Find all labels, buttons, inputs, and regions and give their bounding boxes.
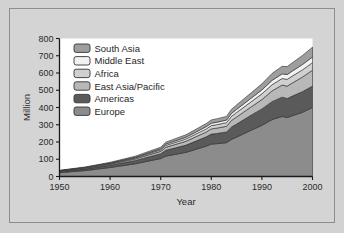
legend-swatch-europe [74, 107, 90, 115]
y-axis-ticks: 0100200300400500600700800 [38, 34, 59, 182]
y-tick-label: 700 [38, 51, 53, 61]
x-axis-title: Year [176, 196, 195, 207]
y-tick-label: 800 [38, 34, 53, 44]
legend-label-middle-east: Middle East [95, 55, 145, 66]
legend-label-east-asia-pacific: East Asia/Pacific [95, 81, 165, 92]
y-tick-label: 300 [38, 120, 53, 130]
legend-swatch-south-asia [74, 44, 90, 52]
x-axis-ticks: 195019601970198019902000 [49, 177, 322, 192]
x-tick-label: 1960 [100, 182, 120, 192]
y-tick-label: 100 [38, 154, 53, 164]
x-tick-label: 2000 [302, 182, 322, 192]
x-tick-label: 1980 [201, 182, 221, 192]
y-tick-label: 200 [38, 137, 53, 147]
y-tick-label: 400 [38, 103, 53, 113]
y-tick-label: 0 [48, 172, 53, 182]
y-tick-label: 600 [38, 68, 53, 78]
legend-label-south-asia: South Asia [95, 43, 141, 54]
legend-label-americas: Americas [95, 93, 135, 104]
figure-background: 195019601970198019902000 010020030040050… [0, 0, 344, 233]
y-tick-label: 500 [38, 85, 53, 95]
legend-swatch-middle-east [74, 57, 90, 65]
legend-swatch-africa [74, 69, 90, 77]
legend-label-africa: Africa [95, 68, 120, 79]
x-tick-label: 1970 [151, 182, 171, 192]
stacked-area-chart: 195019601970198019902000 010020030040050… [0, 0, 344, 233]
chart-container: 195019601970198019902000 010020030040050… [0, 0, 344, 233]
y-axis-title: Million [21, 94, 32, 121]
legend-label-europe: Europe [95, 106, 126, 117]
x-tick-label: 1950 [49, 182, 69, 192]
legend-swatch-east-asia-pacific [74, 82, 90, 90]
x-tick-label: 1990 [252, 182, 272, 192]
legend-swatch-americas [74, 94, 90, 102]
